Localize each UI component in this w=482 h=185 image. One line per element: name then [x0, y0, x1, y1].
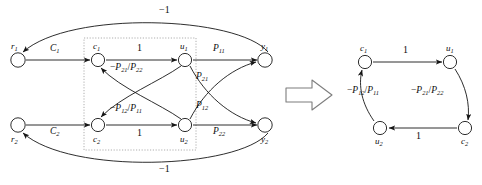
- edge-gain-u1-y2: P21: [196, 72, 208, 82]
- node-r2: [11, 118, 25, 132]
- edge-gain-u2-c1: −P21/P22: [110, 63, 142, 73]
- edge-gain-u1-y1: P11: [213, 44, 225, 54]
- edge-gain-r2-c2: C2: [50, 127, 60, 137]
- node-u2-reduced: [373, 121, 386, 134]
- edge-gain-c2-u2: 1: [137, 128, 142, 138]
- node-label-u2: u2: [180, 135, 188, 144]
- edge-y2-r2-feedback: [23, 133, 268, 162]
- node-y2: [258, 118, 272, 132]
- edge-gain-u2-y1: P12: [196, 101, 208, 111]
- node-label-u2-reduced: u2: [375, 137, 383, 146]
- edge-u1-c2-reduced: [455, 69, 468, 120]
- double-right-arrow-icon: [286, 80, 332, 110]
- node-u1: [178, 53, 191, 66]
- node-u1-reduced: [443, 55, 456, 68]
- node-label-y2: y2: [261, 135, 268, 144]
- edge-gain-u2-c1-reduced: −P12/P11: [347, 86, 379, 96]
- edge-gain-u2-y2: P22: [213, 127, 225, 137]
- node-label-c2-reduced: c2: [461, 137, 468, 146]
- signal-flow-graph-figure: [0, 0, 482, 185]
- node-label-c1: c1: [93, 42, 100, 51]
- edge-gain-y1-r1: −1: [159, 5, 170, 15]
- node-label-u1: u1: [180, 42, 188, 51]
- node-u2: [178, 118, 191, 131]
- edge-gain-c1-u1: 1: [137, 43, 142, 53]
- edge-gain-y2-r2: −1: [159, 164, 170, 174]
- edge-gain-c2-u2-reduced: 1: [416, 131, 421, 141]
- node-r1: [11, 53, 25, 67]
- node-c2: [91, 118, 104, 131]
- node-c2-reduced: [458, 121, 471, 134]
- edge-gain-u1-c2: −P12/P11: [110, 104, 142, 114]
- node-label-r2: r2: [11, 135, 18, 144]
- edge-gain-u1-c2-reduced: −P21/P22: [411, 86, 443, 96]
- edge-gain-c1-u1-reduced: 1: [403, 45, 408, 55]
- node-label-c1-reduced: c1: [360, 44, 367, 53]
- node-c1: [91, 53, 104, 66]
- node-label-u1-reduced: u1: [446, 44, 454, 53]
- node-y1: [258, 53, 272, 67]
- node-c1-reduced: [358, 55, 371, 68]
- edge-gain-r1-c1: C1: [50, 44, 60, 54]
- node-label-y1: y1: [261, 42, 268, 51]
- node-label-r1: r1: [11, 42, 18, 51]
- node-label-c2: c2: [93, 135, 100, 144]
